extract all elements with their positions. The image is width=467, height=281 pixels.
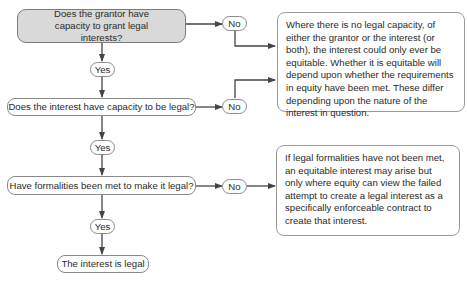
no-label-3-text: No xyxy=(228,181,240,192)
yes-label-3-text: Yes xyxy=(95,221,111,232)
no-label-2-text: No xyxy=(228,101,240,112)
no-label-1: No xyxy=(222,16,247,31)
formalities-note-text: If legal formalities have not been met, … xyxy=(285,152,444,226)
capacity-note-text: Where there is no legal capacity, of eit… xyxy=(286,19,453,118)
no-label-3: No xyxy=(222,179,247,194)
question-formalities-text: Have formalities been met to make it leg… xyxy=(10,180,194,192)
question-grantor-capacity-text: Does the grantor have capacity to grant … xyxy=(38,8,165,44)
yes-label-1: Yes xyxy=(90,62,115,77)
question-interest-capacity-text: Does the interest have capacity to be le… xyxy=(8,101,194,113)
capacity-note: Where there is no legal capacity, of eit… xyxy=(277,12,465,112)
yes-label-1-text: Yes xyxy=(95,64,111,75)
result-legal-interest: The interest is legal xyxy=(57,255,149,273)
yes-label-2: Yes xyxy=(90,140,115,155)
yes-label-3: Yes xyxy=(90,219,115,234)
question-grantor-capacity: Does the grantor have capacity to grant … xyxy=(17,9,186,43)
formalities-note: If legal formalities have not been met, … xyxy=(276,145,460,236)
result-legal-interest-text: The interest is legal xyxy=(61,258,144,270)
question-formalities: Have formalities been met to make it leg… xyxy=(7,176,196,195)
question-interest-capacity: Does the interest have capacity to be le… xyxy=(7,98,196,116)
yes-label-2-text: Yes xyxy=(95,142,111,153)
no-label-2: No xyxy=(222,99,247,114)
no-label-1-text: No xyxy=(228,18,240,29)
